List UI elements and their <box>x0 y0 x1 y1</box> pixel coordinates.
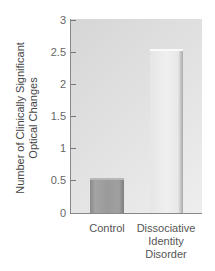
y-tick-label: 3 <box>38 14 66 26</box>
y-tick-label: 1.5 <box>38 110 66 122</box>
bar-dissociative-identity-disorder <box>150 49 183 213</box>
x-label-line: Control <box>89 222 124 234</box>
y-axis-title: Number of Clinically Significant Optical… <box>14 18 40 218</box>
y-tick-label: 0.5 <box>38 174 66 186</box>
y-tick-label: 1 <box>38 142 66 154</box>
bar-control <box>90 178 124 213</box>
x-label-dissociative-identity-disorder: Dissociative Identity Disorder <box>131 222 201 261</box>
x-label-line: Dissociative <box>131 222 201 235</box>
y-tick-label: 0 <box>38 207 66 219</box>
y-tick-label: 2 <box>38 78 66 90</box>
x-axis <box>70 213 202 214</box>
x-label-line: Disorder <box>131 248 201 261</box>
x-label-control: Control <box>82 222 132 235</box>
x-label-line: Identity <box>131 235 201 248</box>
y-axis-title-line-1: Number of Clinically Significant <box>14 18 27 218</box>
y-tick-label: 2.5 <box>38 46 66 58</box>
y-axis <box>70 19 71 214</box>
